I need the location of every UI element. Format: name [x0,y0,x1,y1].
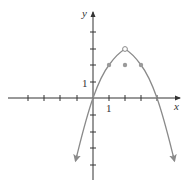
open-point-vertex [123,47,128,52]
function-graph: y x 1 1 [0,0,187,184]
x-unit-label: 1 [106,102,112,114]
filled-point-2-2 [123,63,127,67]
y-unit-label: 1 [82,77,88,89]
filled-point-1-2 [107,63,111,67]
graph-svg: y x 1 1 [0,0,187,184]
y-axis-label: y [81,7,87,19]
filled-point-3-2 [139,63,143,67]
right-arrow-icon [173,155,175,161]
x-axis-label: x [173,100,179,112]
left-arrow-icon [76,155,78,161]
